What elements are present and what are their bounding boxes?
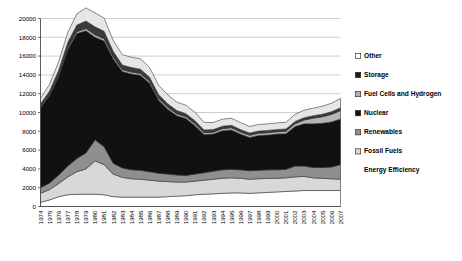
legend-swatch-fossil-fuels (356, 149, 361, 154)
x-axis-tick-label: 1984 (128, 210, 135, 224)
x-axis-tick-label: 2006 (328, 210, 335, 224)
y-axis-ticks: 0200040006000800010000120001400016000180… (19, 15, 41, 210)
x-axis-tick-label: 2002 (291, 210, 298, 224)
x-axis-tick-label: 1975 (46, 210, 53, 224)
x-axis-tick-label: 2001 (282, 210, 289, 224)
y-axis-tick-label: 18000 (19, 34, 37, 41)
x-axis-tick-label: 1998 (255, 210, 262, 224)
legend-label-renewables: Renewables (364, 128, 402, 135)
legend-label-energy-efficiency: Energy Efficiency (364, 166, 420, 174)
x-axis-tick-label: 1985 (137, 210, 144, 224)
x-axis-tick-label: 1991 (191, 210, 198, 224)
x-axis-tick-label: 2005 (319, 210, 326, 224)
x-axis-tick-label: 1974 (37, 210, 44, 224)
legend-label-nuclear: Nuclear (364, 109, 389, 116)
y-axis-tick-label: 16000 (19, 52, 37, 59)
y-axis-tick-label: 6000 (22, 146, 36, 153)
x-axis-tick-label: 1979 (82, 210, 89, 224)
x-axis-tick-label: 1994 (219, 210, 226, 224)
x-axis-ticks: 1974197519761977197819791980198119821983… (37, 210, 344, 224)
x-axis-tick-label: 1980 (91, 210, 98, 224)
chart-legend: OtherStorageFuel Cells and HydrogenNucle… (356, 52, 442, 175)
y-axis-tick-label: 0 (33, 203, 37, 210)
x-axis-tick-label: 2003 (300, 210, 307, 224)
x-axis-tick-label: 2004 (310, 210, 317, 224)
x-axis-tick-label: 2007 (337, 210, 344, 224)
x-axis-tick-label: 1995 (228, 210, 235, 224)
chart-figure: 0200040006000800010000120001400016000180… (0, 0, 462, 261)
x-axis-tick-label: 1990 (182, 210, 189, 224)
x-axis-tick-label: 1987 (155, 210, 162, 224)
x-axis-tick-label: 1997 (246, 210, 253, 224)
stacked-area-chart: 0200040006000800010000120001400016000180… (0, 0, 462, 261)
y-axis-tick-label: 10000 (19, 109, 37, 116)
y-axis-tick-label: 20000 (19, 15, 37, 22)
y-axis-tick-label: 4000 (22, 165, 36, 172)
legend-swatch-fuel-cells-and-hydrogen (356, 92, 361, 97)
x-axis-tick-label: 1999 (264, 210, 271, 224)
legend-label-storage: Storage (364, 71, 389, 79)
y-axis-tick-label: 2000 (22, 184, 36, 191)
legend-swatch-storage (356, 72, 361, 77)
legend-swatch-renewables (356, 130, 361, 135)
area-series-group (41, 8, 341, 207)
x-axis-tick-label: 1978 (73, 210, 80, 224)
legend-label-other: Other (364, 52, 382, 59)
x-axis-tick-label: 1989 (173, 210, 180, 224)
x-axis-tick-label: 1993 (210, 210, 217, 224)
x-axis-tick-label: 1992 (200, 210, 207, 224)
legend-label-fossil-fuels: Fossil Fuels (364, 147, 402, 154)
x-axis-tick-label: 1988 (164, 210, 171, 224)
y-axis-tick-label: 8000 (22, 128, 36, 135)
x-axis-tick-label: 1977 (64, 210, 71, 224)
x-axis-tick-label: 2000 (273, 210, 280, 224)
x-axis-tick-label: 1981 (100, 210, 107, 224)
x-axis-tick-label: 1976 (55, 210, 62, 224)
y-axis-tick-label: 14000 (19, 71, 37, 78)
legend-swatch-nuclear (356, 111, 361, 116)
x-axis-tick-label: 1986 (146, 210, 153, 224)
legend-swatch-other (356, 53, 361, 58)
x-axis-tick-label: 1982 (110, 210, 117, 224)
x-axis-tick-label: 1983 (119, 210, 126, 224)
legend-label-fuel-cells-and-hydrogen: Fuel Cells and Hydrogen (364, 90, 441, 98)
x-axis-tick-label: 1996 (237, 210, 244, 224)
y-axis-tick-label: 12000 (19, 90, 37, 97)
